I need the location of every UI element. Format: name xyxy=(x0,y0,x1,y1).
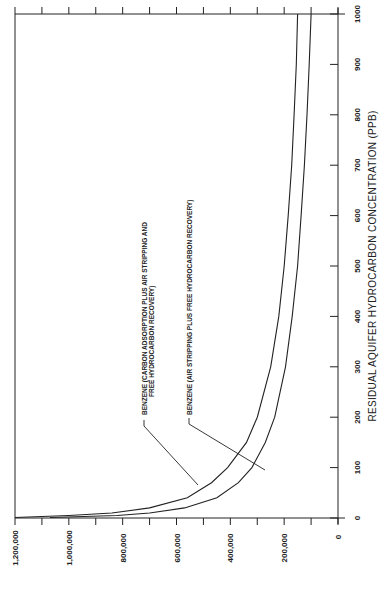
value-tick-label: 1,000,000 xyxy=(65,530,74,566)
ticks xyxy=(15,7,338,525)
annotation-air-stripping: BENZENE (AIR STRIPPING PLUS FREE HYDROCA… xyxy=(186,200,194,415)
annotation-carbon-adsorption-line2: FREE HYDROCARBON RECOVERY) xyxy=(148,286,156,397)
concentration-tick-label: 200 xyxy=(353,410,362,424)
concentration-tick-label: 100 xyxy=(353,460,362,474)
concentration-tick-label: 300 xyxy=(353,360,362,374)
concentration-axis-title: RESIDUAL AQUIFER HYDROCARBON CONCENTRATI… xyxy=(367,110,378,421)
concentration-tick-label: 600 xyxy=(353,208,362,222)
chart: 010020030040050060070080090010000200,000… xyxy=(0,0,387,590)
curves xyxy=(15,14,311,518)
concentration-tick-label: 800 xyxy=(353,108,362,122)
value-tick-label: 600,000 xyxy=(173,533,182,562)
concentration-tick-label: 0 xyxy=(353,515,362,520)
concentration-tick-label: 400 xyxy=(353,309,362,323)
curve-air-stripping xyxy=(50,14,311,518)
value-tick-label: 200,000 xyxy=(280,533,289,562)
value-tick-label: 800,000 xyxy=(119,533,128,562)
concentration-tick-label: 500 xyxy=(353,259,362,273)
leader-line-carbon-adsorption xyxy=(144,420,198,485)
concentration-tick-label: 1000 xyxy=(353,5,362,23)
value-tick-label: 400,000 xyxy=(226,533,235,562)
value-tick-label: 1,200,000 xyxy=(11,530,20,566)
concentration-tick-label: 900 xyxy=(353,57,362,71)
curve-carbon-adsorption xyxy=(15,14,298,518)
concentration-tick-label: 700 xyxy=(353,158,362,172)
value-tick-label: 0 xyxy=(334,534,343,539)
